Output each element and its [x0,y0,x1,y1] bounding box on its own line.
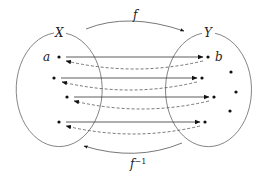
forward-map-label: f [133,9,137,21]
forward-arrows [61,57,209,122]
forward-map-arrow [86,21,184,31]
diagram-graphics [0,0,264,179]
inverse-map-label: f−1 [130,156,146,170]
inverse-map-arrow [84,143,182,153]
set-x-ellipse [16,33,102,147]
set-x-label: X [55,27,64,39]
function-diagram: X Y a b f f−1 [0,0,264,179]
set-y-label: Y [204,27,212,39]
codomain-points [200,55,237,123]
point-a-label: a [43,51,50,63]
domain-points [52,55,68,123]
inverse-arrows [62,61,209,134]
point-b-label: b [215,51,223,63]
inverse-map-superscript: −1 [134,157,146,166]
set-y-ellipse [166,33,252,146]
